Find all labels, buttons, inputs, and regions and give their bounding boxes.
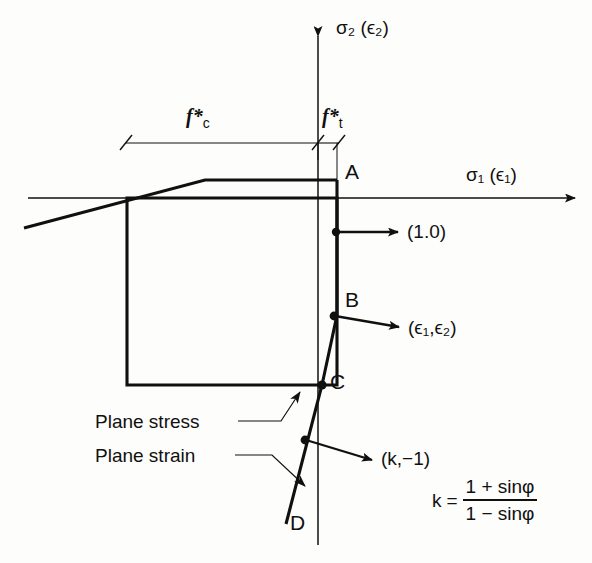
plane-strain-cap-line: [24, 180, 337, 228]
plane-stress-boundary: [127, 198, 337, 385]
sigma-2-axis-label: σ₂ (ϵ₂): [336, 18, 389, 37]
flow-vector-label-c: (k,−1): [381, 449, 430, 468]
k-formula-lhs: k: [432, 490, 442, 512]
flow-vector-c-arrow: [306, 440, 372, 460]
plane-stress-leader-line: [238, 392, 300, 421]
annotation-label-plane-stress: Plane stress: [95, 412, 200, 431]
k-formula-numerator: 1 + sinφ: [463, 476, 538, 501]
dimension-label-fc: f*c: [186, 106, 210, 130]
dimension-label-fc-symbol: f*: [186, 105, 203, 127]
point-label-a: A: [345, 161, 359, 182]
node-dot-c: [317, 380, 326, 389]
dimension-label-fc-subscript: c: [203, 115, 210, 131]
k-formula: k = 1 + sinφ 1 − sinφ: [432, 476, 537, 525]
point-label-d: D: [290, 512, 305, 533]
point-label-b: B: [345, 289, 359, 310]
dimension-label-ft-symbol: f*: [322, 105, 339, 127]
point-label-c: C: [330, 371, 345, 392]
k-formula-equals: =: [447, 490, 458, 512]
annotation-label-plane-strain: Plane strain: [95, 446, 195, 465]
plane-strain-leader-line: [235, 455, 305, 486]
plane-strain-descending-branch: [286, 180, 337, 524]
k-formula-denominator: 1 − sinφ: [463, 501, 538, 525]
dimension-group: [120, 135, 345, 180]
biaxial-failure-envelope-figure: σ₂ (ϵ₂) σ₁ (ϵ₁) f*c f*t A B C D (1.0) (ϵ…: [0, 0, 592, 563]
annotation-leader-group: [235, 392, 305, 486]
flow-vector-label-a: (1.0): [407, 222, 446, 241]
dimension-label-ft-subscript: t: [339, 115, 343, 131]
flow-vector-b-arrow: [335, 316, 399, 327]
dimension-label-ft: f*t: [322, 106, 343, 130]
k-formula-fraction: 1 + sinφ 1 − sinφ: [463, 476, 538, 525]
plane-stress-envelope: [127, 198, 337, 385]
node-dot-group: [301, 228, 341, 445]
flow-vector-label-b: (ϵ₁,ϵ₂): [408, 318, 457, 337]
flow-vector-group: [306, 232, 399, 460]
sigma-1-axis-label: σ₁ (ϵ₁): [466, 165, 517, 184]
